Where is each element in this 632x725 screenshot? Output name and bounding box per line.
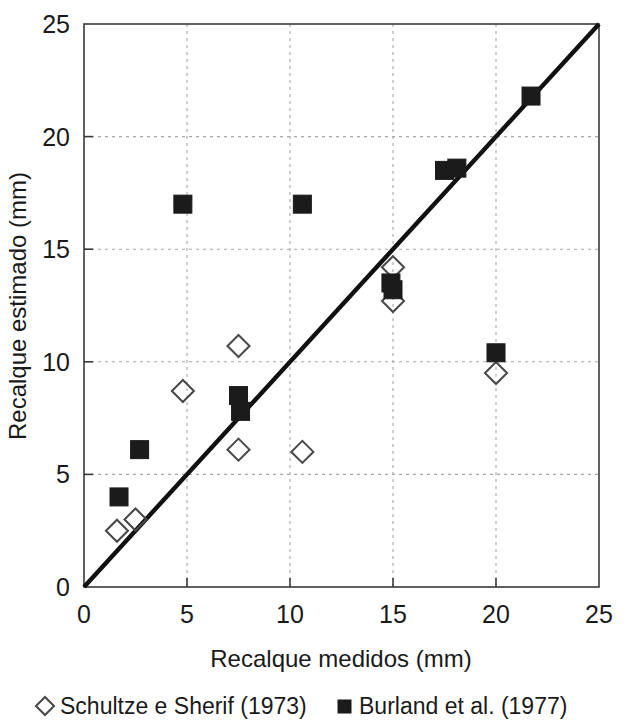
x-tick-label: 5 bbox=[180, 600, 194, 628]
x-tick-label: 25 bbox=[585, 600, 613, 628]
data-point-filled-square bbox=[293, 195, 311, 213]
data-point-filled-square bbox=[384, 281, 402, 299]
y-axis-title: Recalque estimado (mm) bbox=[4, 172, 31, 440]
data-point-filled-square bbox=[131, 441, 149, 459]
x-tick-label: 15 bbox=[379, 600, 407, 628]
x-tick-label: 0 bbox=[77, 600, 91, 628]
series-burland-et-al-markers bbox=[110, 87, 540, 506]
filled-square-icon bbox=[338, 700, 351, 713]
y-tick-label: 20 bbox=[42, 123, 70, 151]
legend-label-burland-et-al: Burland et al. (1977) bbox=[359, 693, 567, 719]
data-point-filled-square bbox=[522, 87, 540, 105]
figure-container: 0510152025 0510152025 Recalque medidos (… bbox=[0, 0, 632, 725]
x-axis-title: Recalque medidos (mm) bbox=[210, 645, 471, 672]
data-point-filled-square bbox=[110, 488, 128, 506]
y-tick-label: 15 bbox=[42, 235, 70, 263]
data-point-open-diamond bbox=[291, 441, 313, 463]
y-tick-label: 0 bbox=[56, 573, 70, 601]
legend: Schultze e Sherif (1973) Burland et al. … bbox=[36, 693, 567, 719]
y-tick-label: 25 bbox=[42, 10, 70, 38]
legend-entry-burland-et-al: Burland et al. (1977) bbox=[338, 693, 567, 719]
data-point-filled-square bbox=[232, 402, 250, 420]
data-point-filled-square bbox=[174, 195, 192, 213]
y-tick-label: 10 bbox=[42, 348, 70, 376]
open-diamond-icon bbox=[36, 697, 54, 715]
reference-line bbox=[84, 24, 599, 587]
data-point-open-diamond bbox=[172, 380, 194, 402]
data-point-filled-square bbox=[448, 159, 466, 177]
y-axis-tick-labels: 0510152025 bbox=[42, 10, 70, 601]
x-axis-tick-labels: 0510152025 bbox=[77, 600, 613, 628]
legend-label-schultze-e-sherif: Schultze e Sherif (1973) bbox=[60, 693, 307, 719]
data-point-filled-square bbox=[487, 344, 505, 362]
scatter-plot: 0510152025 0510152025 Recalque medidos (… bbox=[0, 0, 632, 725]
data-point-open-diamond bbox=[228, 439, 250, 461]
data-point-open-diamond bbox=[485, 362, 507, 384]
legend-entry-schultze-e-sherif: Schultze e Sherif (1973) bbox=[36, 693, 307, 719]
reference-line-1to1 bbox=[84, 24, 599, 587]
x-tick-label: 20 bbox=[482, 600, 510, 628]
data-point-open-diamond bbox=[228, 335, 250, 357]
data-point-open-diamond bbox=[106, 520, 128, 542]
x-tick-label: 10 bbox=[276, 600, 304, 628]
y-tick-label: 5 bbox=[56, 460, 70, 488]
